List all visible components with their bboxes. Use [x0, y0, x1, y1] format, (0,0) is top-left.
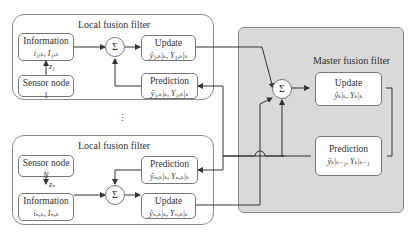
- information-label: Information: [23, 36, 68, 46]
- update-values: ŷₖ|ₖ, Yₖ|ₖ: [316, 90, 381, 101]
- update-values: ŷ₁,ₖ|ₖ, Y₁,ₖ|ₖ: [142, 50, 195, 61]
- local-fusion-filter-bottom-title: Local fusion filter: [78, 140, 150, 151]
- update-label: Update: [335, 78, 362, 88]
- prediction-label: Prediction: [150, 76, 189, 86]
- summation-node-bottom: Σ: [105, 185, 125, 205]
- prediction-label: Prediction: [150, 159, 189, 169]
- update-label: Update: [155, 38, 182, 48]
- measurement-z1: z₁: [49, 62, 55, 71]
- information-values: i₁,ₖ, I₁,ₖ: [19, 48, 73, 59]
- sensor-id: 1: [19, 90, 73, 101]
- local-fusion-filter-top-title: Local fusion filter: [78, 19, 150, 30]
- information-label: Information: [23, 196, 68, 206]
- prediction-values: ŷₙ,ₖ|ₖ, Yₙ,ₖ|ₖ: [142, 171, 197, 182]
- summation-node-top: Σ: [105, 37, 125, 57]
- prediction-values: ŷ₁,ₖ|ₖ, Y₁,ₖ|ₖ: [142, 88, 197, 99]
- sensor-node-n: Sensor node N: [18, 155, 74, 177]
- master-update-box: Update ŷₖ|ₖ, Yₖ|ₖ: [315, 72, 382, 106]
- update-box-top: Update ŷ₁,ₖ|ₖ, Y₁,ₖ|ₖ: [141, 35, 196, 61]
- prediction-box-top: Prediction ŷ₁,ₖ|ₖ, Y₁,ₖ|ₖ: [141, 73, 198, 99]
- update-label: Update: [155, 196, 182, 206]
- information-box-n: Information iₙ,ₖ, Iₙ,ₖ: [18, 193, 74, 221]
- information-values: iₙ,ₖ, Iₙ,ₖ: [19, 208, 73, 219]
- sensor-label: Sensor node: [23, 78, 70, 88]
- sensor-id: N: [19, 170, 73, 181]
- update-values: ŷₙ,ₖ|ₖ, Yₙ,ₖ|ₖ: [142, 208, 195, 219]
- prediction-box-bottom: Prediction ŷₙ,ₖ|ₖ, Yₙ,ₖ|ₖ: [141, 156, 198, 184]
- prediction-label: Prediction: [329, 144, 368, 154]
- information-box-1: Information i₁,ₖ, I₁,ₖ: [18, 33, 74, 61]
- prediction-values: ŷₖ|ₖ₋₁, Yₖ|ₖ₋₁: [316, 156, 381, 167]
- ellipsis: ⋮: [118, 116, 127, 120]
- master-fusion-filter-title: Master fusion filter: [313, 55, 390, 66]
- sensor-node-1: Sensor node 1: [18, 75, 74, 97]
- update-box-bottom: Update ŷₙ,ₖ|ₖ, Yₙ,ₖ|ₖ: [141, 193, 196, 219]
- measurement-zn: zₙ: [49, 180, 55, 189]
- master-prediction-box: Prediction ŷₖ|ₖ₋₁, Yₖ|ₖ₋₁: [315, 136, 382, 176]
- summation-node-master: Σ: [272, 79, 292, 99]
- sensor-label: Sensor node: [23, 158, 70, 168]
